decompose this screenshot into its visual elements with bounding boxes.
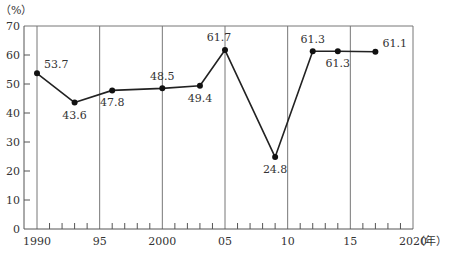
y-axis-unit-label: （%） — [0, 4, 32, 17]
y-tick-label-20: 20 — [6, 165, 20, 178]
y-tick-label-40: 40 — [6, 107, 20, 120]
data-label-1990: 53.7 — [44, 58, 69, 71]
x-tick-label-1995: 95 — [93, 235, 107, 248]
line-chart: 19909520000510152020010203040506070 53.7… — [0, 0, 451, 255]
y-tick-label-30: 30 — [6, 136, 20, 149]
data-label-2005: 61.7 — [207, 31, 232, 44]
y-tick-label-10: 10 — [6, 194, 20, 207]
grid-layer — [37, 26, 413, 229]
data-point-1996 — [109, 87, 115, 93]
data-point-2000 — [159, 85, 165, 91]
y-tick-label-50: 50 — [6, 78, 20, 91]
x-tick-label-1990: 1990 — [23, 235, 51, 248]
data-point-1993 — [72, 100, 78, 106]
axis-layer: 19909520000510152020010203040506070 — [6, 20, 427, 248]
data-label-2003: 49.4 — [188, 92, 213, 105]
data-label-2012: 61.3 — [300, 33, 325, 46]
data-label-2009: 24.8 — [263, 163, 288, 176]
data-point-1990 — [34, 70, 40, 76]
data-label-1996: 47.8 — [100, 96, 125, 109]
x-tick-label-2000: 2000 — [148, 235, 176, 248]
data-point-2005 — [222, 47, 228, 53]
x-tick-label-2005: 05 — [218, 235, 232, 248]
data-point-2012 — [310, 48, 316, 54]
data-point-2009 — [272, 154, 278, 160]
x-axis-unit-label: （年） — [414, 234, 447, 248]
data-point-2003 — [197, 83, 203, 89]
x-tick-label-2010: 10 — [281, 235, 295, 248]
y-tick-label-0: 0 — [13, 223, 20, 236]
x-tick-label-2015: 15 — [343, 235, 357, 248]
data-label-2017: 61.1 — [382, 37, 407, 50]
data-point-2017 — [372, 49, 378, 55]
y-tick-label-60: 60 — [6, 49, 20, 62]
y-tick-label-70: 70 — [6, 20, 20, 33]
data-label-2000: 48.5 — [150, 70, 175, 83]
data-label-2014: 61.3 — [326, 57, 351, 70]
data-label-1993: 43.6 — [62, 109, 87, 122]
data-point-2014 — [335, 48, 341, 54]
